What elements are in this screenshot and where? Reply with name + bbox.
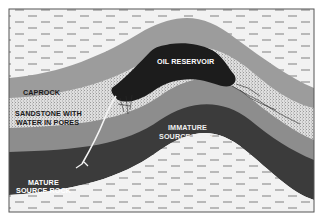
label-oil-reservoir: OIL RESERVOIR <box>157 57 215 66</box>
label-sandstone-line1: SANDSTONE WITH <box>15 109 82 118</box>
label-mature-line2: SOURCE ROCK <box>16 186 72 195</box>
label-immature-line2: SOURCE ROCK <box>159 132 215 141</box>
label-immature-line1: IMMATURE <box>168 123 207 132</box>
label-sandstone-line2: WATER IN PORES <box>16 118 79 127</box>
label-caprock: CAPROCK <box>23 88 61 97</box>
anticline-oil-trap-diagram: OIL RESERVOIR CAPROCK SANDSTONE WITH WAT… <box>0 0 322 218</box>
